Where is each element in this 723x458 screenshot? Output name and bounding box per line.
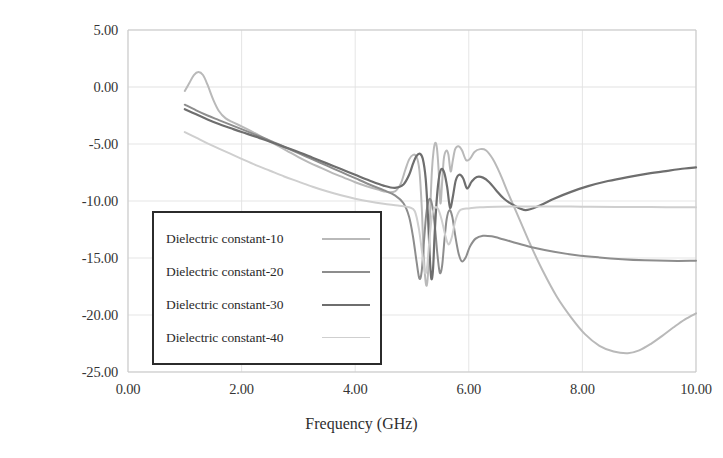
y-tick-label: 5.00 [40,22,118,39]
legend-line-swatch [322,238,370,240]
legend-line-swatch [322,304,370,306]
legend-item-label: Dielectric constant-40 [166,330,283,346]
y-tick-label: -20.00 [40,307,118,324]
legend-item-4[interactable]: Dielectric constant-40 [166,325,370,351]
y-tick-label: 0.00 [40,79,118,96]
legend-item-label: Dielectric constant-20 [166,264,283,280]
legend-line-swatch [322,271,370,273]
x-tick-label: 10.00 [680,381,712,398]
legend-item-2[interactable]: Dielectric constant-20 [166,259,370,285]
chart-legend: Dielectric constant-10Dielectric constan… [152,211,382,365]
x-axis-title: Frequency (GHz) [0,415,723,433]
legend-item-1[interactable]: Dielectric constant-10 [166,226,370,252]
x-tick-label: 6.00 [457,381,482,398]
legend-item-3[interactable]: Dielectric constant-30 [166,292,370,318]
x-tick-label: 2.00 [229,381,254,398]
y-tick-label: -5.00 [40,136,118,153]
x-tick-label: 4.00 [343,381,368,398]
x-tick-label: 8.00 [570,381,595,398]
y-tick-label: -15.00 [40,250,118,267]
legend-line-swatch [322,337,370,338]
legend-item-label: Dielectric constant-10 [166,231,283,247]
x-tick-label: 0.00 [116,381,141,398]
legend-item-label: Dielectric constant-30 [166,297,283,313]
y-tick-label: -25.00 [40,364,118,381]
y-tick-label: -10.00 [40,193,118,210]
chart-figure: 5.000.00-5.00-10.00-15.00-20.00-25.00 0.… [0,0,723,458]
